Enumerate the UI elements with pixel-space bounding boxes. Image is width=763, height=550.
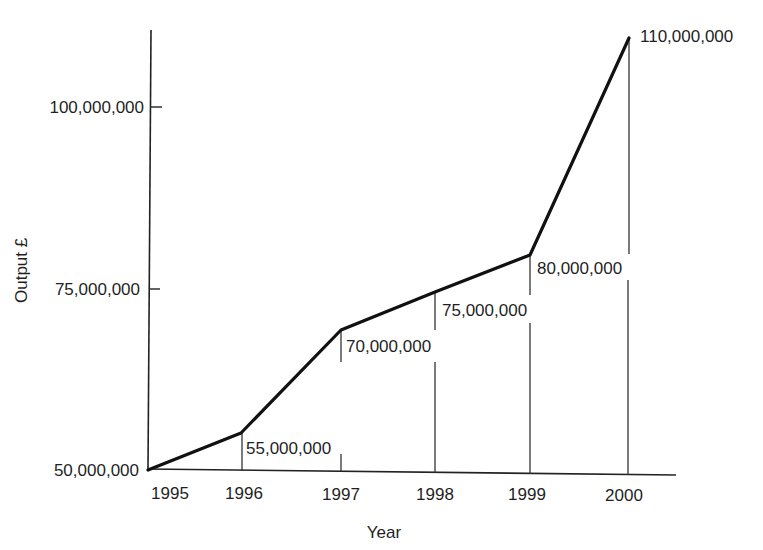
data-label-1998: 75,000,000	[442, 301, 527, 320]
x-tick-label-1995: 1995	[151, 484, 189, 503]
y-axis-title: Output £	[12, 237, 31, 303]
y-tick-label-50m: 50,000,000	[54, 461, 139, 480]
x-tick-label-1999: 1999	[508, 485, 546, 504]
data-label-2000: 110,000,000	[640, 27, 733, 46]
data-label-1999: 80,000,000	[537, 259, 622, 278]
x-axis	[148, 469, 676, 475]
y-tick-label-75m: 75,000,000	[55, 280, 140, 299]
data-label-1996: 55,000,000	[246, 439, 331, 458]
output-series-line	[148, 38, 629, 470]
y-tick-label-100m: 100,000,000	[49, 98, 144, 117]
line-chart: 100,000,000 75,000,000 50,000,000 Output…	[0, 0, 763, 550]
x-tick-label-1997: 1997	[322, 485, 360, 504]
y-axis	[148, 30, 151, 470]
data-label-1997: 70,000,000	[346, 337, 431, 356]
x-tick-label-2000: 2000	[605, 486, 643, 505]
x-axis-title: Year	[367, 523, 402, 542]
x-tick-label-1998: 1998	[416, 485, 454, 504]
x-tick-label-1996: 1996	[225, 484, 263, 503]
